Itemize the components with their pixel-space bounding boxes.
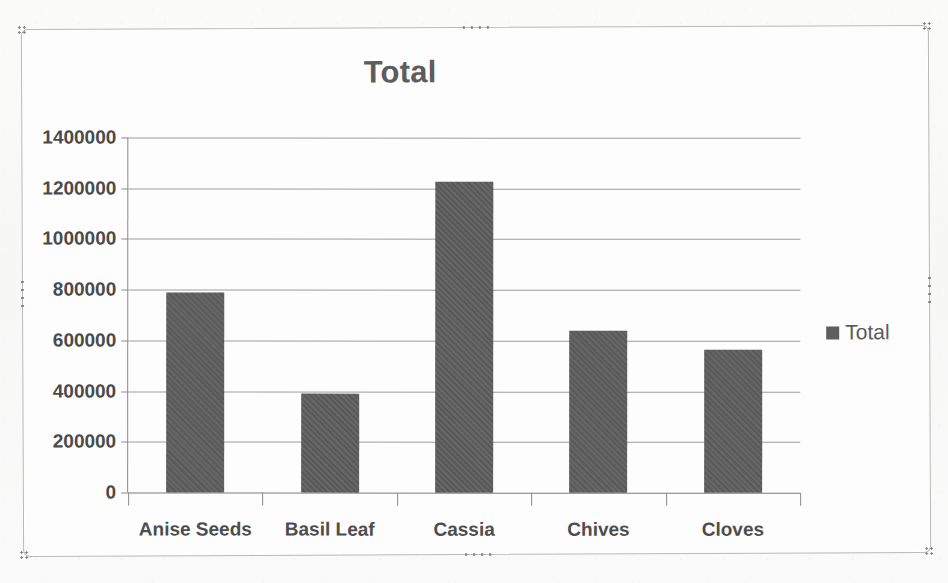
chart-title[interactable]: Total: [22, 52, 928, 92]
y-axis-tick-label: 1000000: [42, 228, 116, 250]
y-axis-tick: [121, 340, 128, 341]
x-axis-category-label: Cassia: [433, 519, 494, 541]
bar[interactable]: [570, 330, 628, 492]
x-axis-tick: [666, 493, 667, 506]
y-axis-tick: [121, 138, 128, 139]
bar-slot: [666, 138, 801, 493]
x-axis-tick: [263, 493, 264, 506]
plot-area[interactable]: 0200000400000600000800000100000012000001…: [128, 138, 800, 493]
bar-slot: [531, 138, 666, 493]
bar-slot: [263, 138, 398, 493]
chart-object[interactable]: Total 0200000400000600000800000100000012…: [21, 25, 931, 557]
x-axis-tick: [397, 493, 398, 506]
y-axis-tick: [121, 188, 128, 189]
x-axis-category-label: Chives: [567, 519, 629, 541]
y-axis-tick-label: 200000: [53, 431, 116, 453]
y-axis-tick-label: 1400000: [42, 126, 116, 148]
worksheet-canvas: Total 0200000400000600000800000100000012…: [0, 0, 948, 583]
bar-slot: [397, 138, 532, 493]
bar[interactable]: [301, 394, 359, 493]
y-axis-tick-label: 600000: [53, 329, 116, 351]
x-axis-category-label: Basil Leaf: [285, 519, 375, 541]
y-axis-tick: [121, 290, 128, 291]
y-axis-tick-label: 800000: [53, 279, 116, 301]
chart-legend[interactable]: Total: [826, 320, 889, 344]
x-axis-category-label: Anise Seeds: [139, 519, 252, 541]
y-axis-tick: [121, 391, 128, 392]
bar[interactable]: [435, 182, 493, 493]
legend-label-total: Total: [845, 320, 889, 344]
x-axis: Anise SeedsBasil LeafCassiaChivesCloves: [128, 493, 800, 556]
bar[interactable]: [704, 350, 762, 493]
x-axis-tick: [800, 493, 801, 506]
chart-area[interactable]: Total 0200000400000600000800000100000012…: [22, 26, 930, 556]
x-axis-tick: [128, 493, 129, 506]
y-axis-tick-label: 0: [106, 482, 117, 504]
legend-swatch-icon: [826, 326, 839, 339]
bar-series-total[interactable]: [128, 138, 800, 493]
y-axis-tick-label: 1200000: [42, 177, 116, 199]
x-axis-category-label: Cloves: [702, 519, 764, 541]
y-axis-tick: [121, 239, 128, 240]
bar-slot: [128, 138, 263, 493]
y-axis-tick: [121, 493, 128, 494]
y-axis-tick-label: 400000: [53, 380, 116, 402]
bar[interactable]: [166, 292, 224, 492]
y-axis-tick: [121, 442, 128, 443]
x-axis-tick: [531, 493, 532, 506]
